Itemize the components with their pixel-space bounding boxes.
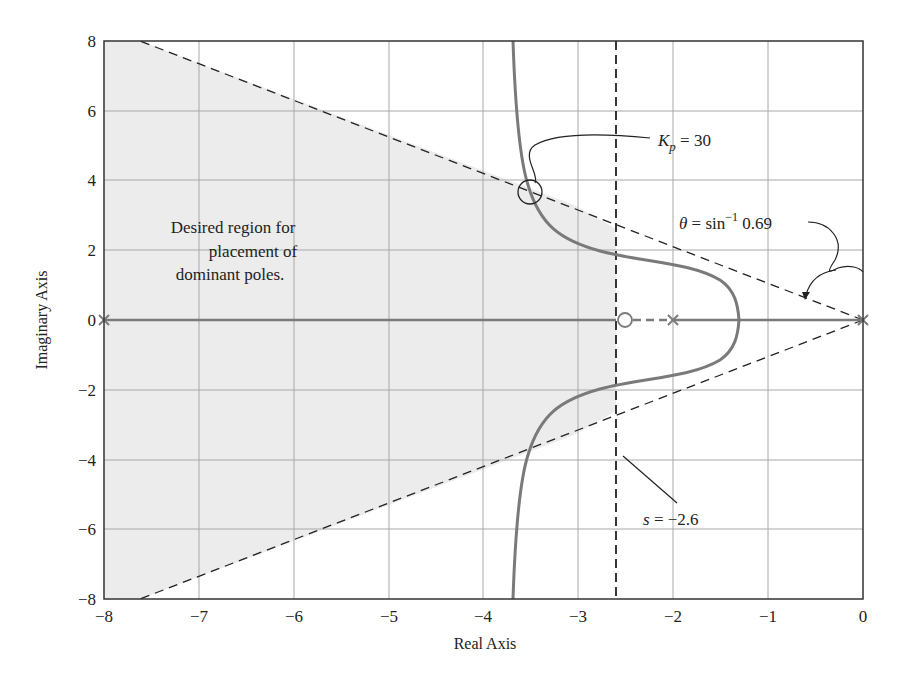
svg-text:−6: −6 [285, 607, 303, 626]
s-leader-line [623, 456, 677, 503]
x-axis-title: Real Axis [454, 635, 517, 652]
svg-text:−3: −3 [569, 607, 587, 626]
svg-text:−7: −7 [190, 607, 209, 626]
root-locus-chart: Desired region for placement of dominant… [0, 0, 899, 678]
svg-text:−2: −2 [78, 381, 96, 400]
y-tick-labels: 8 6 4 2 0 −2 −4 −6 −8 [78, 32, 97, 609]
svg-text:6: 6 [88, 102, 97, 121]
x-tick-labels: −8 −7 −6 −5 −4 −3 −2 −1 0 [95, 607, 867, 626]
svg-text:8: 8 [88, 32, 97, 51]
kp-annotation: Kp = 30 [657, 131, 711, 154]
y-axis-title: Imaginary Axis [33, 270, 51, 369]
svg-text:−2: −2 [664, 607, 682, 626]
region-label-line-2: placement of [209, 242, 298, 261]
svg-text:−8: −8 [95, 607, 113, 626]
theta-annotation: θ = sin−1 0.69 [679, 210, 772, 233]
svg-text:0: 0 [88, 311, 97, 330]
svg-text:−4: −4 [474, 607, 493, 626]
svg-text:0: 0 [859, 607, 868, 626]
svg-text:−5: −5 [380, 607, 398, 626]
kp-leader-line [529, 135, 650, 183]
theta-leader-line [808, 222, 863, 272]
region-label-line-1: Desired region for [171, 218, 296, 237]
svg-text:−6: −6 [78, 520, 96, 539]
zero-icon [618, 313, 632, 327]
region-label-line-3: dominant poles. [176, 265, 285, 284]
s-annotation: s = −2.6 [643, 510, 699, 529]
theta-arrow-head-icon [802, 292, 810, 300]
svg-text:−1: −1 [759, 607, 777, 626]
theta-arrow-line [806, 270, 836, 295]
svg-text:−4: −4 [78, 451, 97, 470]
svg-text:−8: −8 [78, 590, 96, 609]
svg-text:2: 2 [88, 241, 97, 260]
svg-text:4: 4 [88, 171, 97, 190]
